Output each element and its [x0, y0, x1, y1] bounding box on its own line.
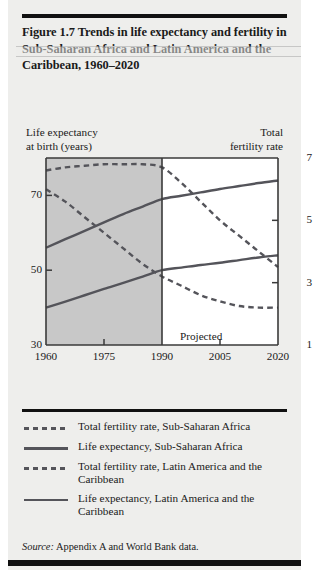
xtick-label-2: 1990 — [142, 350, 182, 362]
ytick-label-left-0: 30 — [12, 338, 42, 350]
xtick-label-1: 1975 — [84, 350, 124, 362]
legend-item-label: Total fertility rate, Sub-Saharan Africa — [78, 420, 290, 433]
chart-plot-area: 305070135719601975199020052020 Projected — [8, 0, 301, 400]
legend-item-label: Life expectancy, Latin America and the C… — [78, 492, 290, 519]
xtick-label-4: 2020 — [258, 350, 298, 362]
dashed-line-icon — [22, 421, 68, 435]
ytick-label-left-2: 70 — [12, 188, 42, 200]
ytick-label-right-2: 5 — [282, 213, 301, 225]
source-label: Source: — [22, 541, 54, 552]
solid-line-icon — [22, 493, 68, 507]
bottom-rule — [8, 560, 301, 566]
ytick-label-right-0: 1 — [282, 338, 301, 350]
legend-item-label: Life expectancy, Sub-Saharan Africa — [78, 440, 290, 453]
dashed-line-icon — [22, 461, 68, 475]
legend-rule — [22, 409, 287, 412]
solid-line-icon — [22, 441, 68, 455]
chart-svg — [8, 0, 301, 400]
chart-legend: Total fertility rate, Sub-Saharan Africa… — [22, 420, 290, 524]
ytick-label-left-1: 50 — [12, 263, 42, 275]
projected-region — [162, 158, 278, 345]
ytick-label-right-1: 3 — [282, 276, 301, 288]
legend-item: Total fertility rate, Sub-Saharan Africa — [22, 420, 290, 435]
xtick-label-3: 2005 — [200, 350, 240, 362]
legend-item: Total fertility rate, Latin America and … — [22, 460, 290, 487]
source-text: Appendix A and World Bank data. — [56, 541, 199, 552]
legend-item-label: Total fertility rate, Latin America and … — [78, 460, 290, 487]
figure-page: Figure 1.7 Trends in life expectancy and… — [8, 0, 301, 570]
historical-region — [46, 158, 162, 345]
source-note: Source: Appendix A and World Bank data. — [22, 541, 199, 552]
legend-item: Life expectancy, Latin America and the C… — [22, 492, 290, 519]
xtick-label-0: 1960 — [26, 350, 66, 362]
projected-annotation: Projected — [180, 330, 222, 342]
legend-item: Life expectancy, Sub-Saharan Africa — [22, 440, 290, 455]
ytick-label-right-3: 7 — [282, 151, 301, 163]
